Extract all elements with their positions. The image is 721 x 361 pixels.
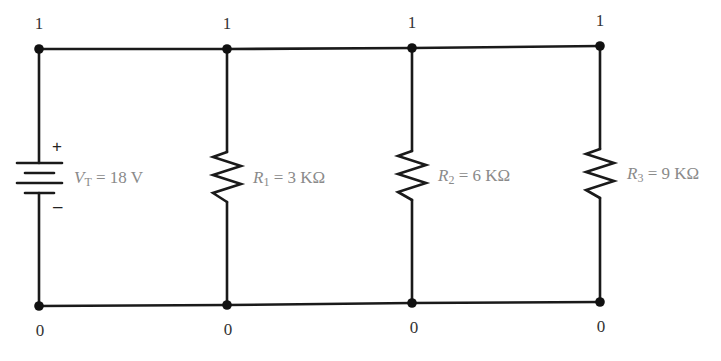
node-label-bottom: 0 <box>224 320 233 340</box>
r2-subscript: 2 <box>448 173 454 187</box>
r3-symbol: R <box>627 164 637 183</box>
node-label-top: 1 <box>35 14 44 34</box>
plus-sign: + <box>52 137 62 157</box>
junction-dot <box>222 44 232 54</box>
r3-subscript: 3 <box>637 171 643 185</box>
bottom-wire <box>39 302 600 306</box>
node-label-top: 1 <box>596 11 605 31</box>
minus-sign: – <box>53 197 62 217</box>
junction-dot <box>34 44 44 54</box>
node-label-bottom: 0 <box>597 317 606 337</box>
junction-dot <box>595 41 605 51</box>
r1-subscript: 1 <box>263 175 269 189</box>
r3-value: = 9 KΩ <box>648 164 700 183</box>
resistor-r3-icon <box>586 149 614 198</box>
source-label: VT = 18 V <box>74 168 143 188</box>
node-label-bottom: 0 <box>410 318 419 338</box>
junction-dot <box>407 43 417 53</box>
r1-symbol: R <box>253 168 263 187</box>
source-subscript: T <box>84 175 91 189</box>
node-label-top: 1 <box>408 13 417 33</box>
resistor-r3-label: R3 = 9 KΩ <box>627 164 699 184</box>
top-wire <box>39 46 600 49</box>
battery-icon <box>17 163 62 193</box>
r1-value: = 3 KΩ <box>274 168 326 187</box>
node-label-bottom: 0 <box>36 321 45 341</box>
r2-symbol: R <box>438 166 448 185</box>
resistor-r2-label: R2 = 6 KΩ <box>438 166 510 186</box>
source-value: = 18 V <box>96 168 143 187</box>
junction-dot <box>222 300 232 310</box>
resistor-r1-icon <box>213 152 241 202</box>
resistor-r2-icon <box>398 151 426 200</box>
r2-value: = 6 KΩ <box>459 166 511 185</box>
junction-dot <box>595 297 605 307</box>
node-label-top: 1 <box>223 14 232 34</box>
junction-dot <box>407 298 417 308</box>
source-symbol: V <box>74 168 84 187</box>
resistor-r1-label: R1 = 3 KΩ <box>253 168 325 188</box>
junction-dot <box>34 301 44 311</box>
